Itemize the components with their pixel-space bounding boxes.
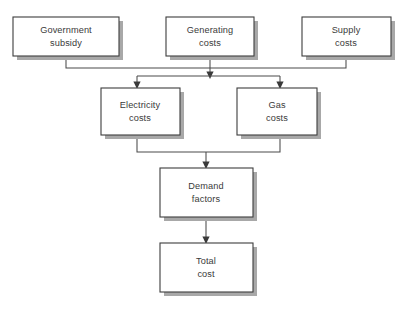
node-body [160,168,253,217]
node-label-line1: Generating [187,25,233,35]
node-body [302,17,391,56]
node-body [160,243,253,292]
node-label-line1: Gas [268,100,285,110]
flowchart-diagram: Government subsidy Generating costs Supp… [0,0,405,309]
node-label-line2: factors [192,194,221,204]
node-body [237,88,317,135]
node-label-line2: costs [129,113,151,123]
node-generating-costs[interactable]: Generating costs [166,17,258,60]
node-demand-factors[interactable]: Demand factors [160,168,257,221]
arrowhead-generating-to-distribution-icon [206,72,213,80]
node-label-line1: Supply [332,25,361,35]
node-label-line2: cost [197,269,215,279]
node-body [101,88,180,135]
node-label-line2: costs [266,113,288,123]
node-label-line2: costs [335,38,357,48]
node-government-subsidy[interactable]: Government subsidy [13,17,123,60]
node-label-line2: costs [199,38,221,48]
node-label-line1: Demand [188,181,223,191]
node-label-line2: subsidy [50,38,82,48]
node-body [13,17,119,56]
node-label-line1: Electricity [120,100,161,110]
node-total-cost[interactable]: Total cost [160,243,257,296]
node-supply-costs[interactable]: Supply costs [302,17,395,60]
flowchart-canvas: Government subsidy Generating costs Supp… [0,0,405,309]
node-gas-costs[interactable]: Gas costs [237,88,321,139]
node-label-line1: Government [40,25,92,35]
node-electricity-costs[interactable]: Electricity costs [101,88,184,139]
node-label-line1: Total [196,256,216,266]
node-body [166,17,254,56]
